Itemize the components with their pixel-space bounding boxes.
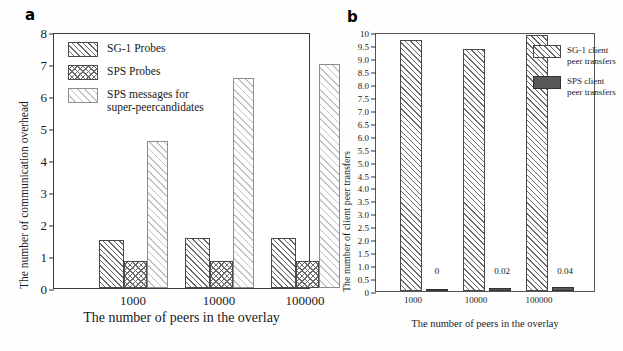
bar-sg1-probes-10000	[185, 238, 210, 288]
y-tick-mark	[49, 258, 54, 259]
panel-b-y-tick-label: 8.0	[358, 81, 369, 91]
legend-swatch-sg1-client-icon	[533, 45, 561, 58]
y-tick-mark	[371, 72, 376, 73]
y-tick-mark	[371, 254, 376, 255]
data-label-sps-1000: 0	[435, 266, 440, 276]
panel-b-y-tick-label: 8.5	[358, 68, 369, 78]
legend-swatch-sps-client-icon	[533, 76, 561, 89]
legend-item: SG-1 Probes	[68, 42, 204, 57]
legend-swatch-sps-probes-icon	[68, 65, 98, 80]
y-tick-mark	[371, 98, 376, 99]
panel-a-y-tick-label: 7	[41, 58, 48, 74]
y-tick-mark	[371, 202, 376, 203]
y-tick-mark	[371, 150, 376, 151]
legend-label: SG-1 Probes	[107, 42, 165, 55]
y-tick-mark	[371, 137, 376, 138]
panel-b-x-tick-label: 1000	[404, 291, 422, 305]
panel-b-y-tick-label: 2.0	[358, 236, 369, 246]
legend-swatch-sg1-probes-icon	[68, 42, 98, 57]
y-tick-mark	[49, 162, 54, 163]
panel-b-x-tick-label: 100000	[526, 291, 553, 305]
legend-item: SPS messages for super-peercandidates	[68, 88, 204, 114]
legend-label: SPS client peer transfers	[567, 76, 616, 97]
panel-a-y-tick-label: 0	[41, 282, 48, 298]
panel-a-y-tick-label: 2	[41, 218, 48, 234]
panel-a-y-tick-label: 3	[41, 186, 48, 202]
panel-a-y-tick-label: 4	[41, 154, 48, 170]
y-tick-mark	[371, 189, 376, 190]
y-tick-mark	[371, 215, 376, 216]
legend-swatch-sps-messages-icon	[68, 88, 98, 103]
panel-b-y-tick-label: 7.5	[358, 94, 369, 104]
panel-b-y-tick-label: 9.5	[358, 42, 369, 52]
bar-sps-messages-1000	[147, 141, 168, 288]
panel-b-y-tick-label: 9.0	[358, 55, 369, 65]
legend-label: SG-1 client peer transfers	[567, 45, 616, 66]
panel-a-y-tick-label: 5	[41, 122, 48, 138]
legend-item: SG-1 client peer transfers	[533, 45, 616, 66]
panel-b-y-tick-label: 5.5	[358, 146, 369, 156]
y-tick-mark	[49, 66, 54, 67]
panel-a-y-tick-label: 1	[41, 250, 48, 266]
panel-b-x-axis-label: The number of peers in the overlay	[375, 318, 595, 329]
panel-a: a The number of communication overhead 0…	[0, 0, 320, 351]
panel-a-x-tick-label: 10000	[203, 288, 236, 309]
panel-a-letter: a	[25, 6, 35, 24]
y-tick-mark	[49, 194, 54, 195]
panel-b-y-tick-label: 2.5	[358, 223, 369, 233]
y-tick-mark	[49, 290, 54, 291]
panel-b-y-tick-label: 10	[360, 29, 369, 39]
panel-a-legend: SG-1 Probes SPS Probes SPS messages for …	[68, 42, 204, 122]
panel-b-y-tick-label: 3.0	[358, 210, 369, 220]
y-tick-mark	[371, 241, 376, 242]
panel-b-y-tick-label: 1.5	[358, 249, 369, 259]
legend-label: SPS messages for super-peercandidates	[107, 88, 204, 114]
bar-sg1-probes-100000	[271, 238, 296, 288]
data-label-sps-100000: 0.04	[557, 266, 573, 276]
y-tick-mark	[371, 111, 376, 112]
panel-a-y-tick-label: 8	[41, 26, 48, 42]
panel-b-y-tick-label: 3.5	[358, 197, 369, 207]
bar-sps-probes-10000	[210, 261, 233, 288]
panel-b-y-tick-label: 0	[365, 288, 370, 298]
y-tick-mark	[49, 130, 54, 131]
legend-label: SPS Probes	[107, 65, 160, 78]
bar-sg1-client-1000	[400, 40, 422, 291]
y-tick-mark	[371, 59, 376, 60]
y-tick-mark	[371, 280, 376, 281]
bar-sps-client-10000	[489, 288, 511, 291]
bar-sps-client-100000	[552, 287, 574, 292]
y-tick-mark	[371, 163, 376, 164]
panel-b-y-tick-label: 4.5	[358, 172, 369, 182]
bar-sg1-probes-1000	[99, 240, 124, 288]
panel-b-x-tick-label: 10000	[465, 291, 488, 305]
bar-sps-messages-10000	[233, 78, 254, 288]
y-tick-mark	[371, 228, 376, 229]
panel-b-y-tick-label: 6.5	[358, 120, 369, 130]
bar-sps-probes-100000	[296, 261, 319, 288]
y-tick-mark	[371, 176, 376, 177]
y-tick-mark	[371, 34, 376, 35]
legend-item: SPS client peer transfers	[533, 76, 616, 97]
y-tick-mark	[371, 293, 376, 294]
panel-b-y-tick-label: 7.0	[358, 107, 369, 117]
y-tick-mark	[371, 124, 376, 125]
y-tick-mark	[371, 85, 376, 86]
panel-b-letter: b	[347, 8, 358, 26]
panel-b-y-tick-label: 0.5	[358, 275, 369, 285]
y-tick-mark	[371, 267, 376, 268]
panel-b-y-tick-label: 1.0	[358, 262, 369, 272]
panel-b-y-tick-label: 5.0	[358, 159, 369, 169]
panel-b-legend: SG-1 client peer transfers SPS client pe…	[533, 45, 616, 107]
panel-a-x-axis-label: The number of peers in the overlay	[53, 310, 310, 326]
panel-a-y-axis-label: The number of communication overhead	[18, 101, 30, 289]
bar-sps-probes-1000	[124, 261, 147, 288]
y-tick-mark	[371, 47, 376, 48]
panel-a-x-tick-label: 100000	[286, 288, 325, 309]
bar-sg1-client-10000	[463, 49, 485, 291]
y-tick-mark	[49, 226, 54, 227]
bottom-edge-artifact	[0, 336, 623, 351]
y-tick-mark	[49, 34, 54, 35]
panel-a-x-tick-label: 1000	[120, 288, 146, 309]
panel-b-y-axis-label: The number of client peer transfers	[341, 151, 352, 292]
